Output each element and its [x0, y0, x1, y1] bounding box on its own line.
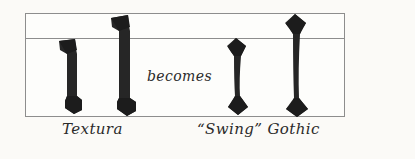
stroke-swing-tall	[280, 14, 312, 118]
caption-swing-gothic: “Swing” Gothic	[197, 120, 320, 138]
becomes-label: becomes	[147, 68, 212, 84]
stroke-textura-tall	[107, 14, 143, 118]
caption-textura: Textura	[62, 120, 123, 138]
stroke-swing-short	[222, 38, 252, 116]
figure-canvas: becomes Textura “Swing” Gothic	[0, 0, 415, 159]
stroke-textura-short	[56, 38, 90, 116]
